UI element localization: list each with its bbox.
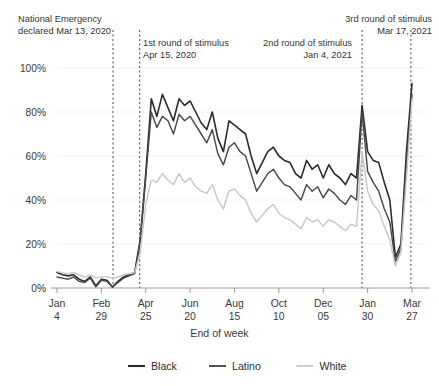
annotation-first-stimulus: 1st round of stimulus bbox=[143, 38, 229, 48]
annotation-first-stimulus: Apr 15, 2020 bbox=[143, 50, 196, 60]
x-axis-month-label: Feb bbox=[92, 298, 110, 309]
axes bbox=[51, 288, 430, 293]
x-axis-day-label: 25 bbox=[140, 311, 152, 322]
legend-label-latino[interactable]: Latino bbox=[232, 360, 261, 372]
legend: BlackLatinoWhite bbox=[128, 360, 347, 372]
x-axis-day-label: 05 bbox=[317, 311, 329, 322]
legend-label-white[interactable]: White bbox=[319, 360, 346, 372]
x-axis-day-label: 27 bbox=[406, 311, 418, 322]
y-axis-tick-label: 80% bbox=[26, 107, 46, 118]
legend-label-black[interactable]: Black bbox=[151, 360, 178, 372]
y-axis-tick-label: 100% bbox=[20, 63, 46, 74]
x-axis-day-label: 15 bbox=[229, 311, 241, 322]
x-axis-day-label: 10 bbox=[273, 311, 285, 322]
y-axis-tick-label: 0% bbox=[31, 283, 46, 294]
x-axis-day-label: 20 bbox=[184, 311, 196, 322]
annotation-second-stimulus: Jan 4, 2021 bbox=[303, 50, 352, 60]
x-axis-day-label: 29 bbox=[96, 311, 108, 322]
x-axis-month-label: Dec bbox=[314, 298, 332, 309]
x-axis-month-label: Oct bbox=[271, 298, 287, 309]
event-annotations: National Emergencydeclared Mar 13, 20201… bbox=[18, 14, 432, 60]
y-axis-tick-labels: 0%20%40%60%80%100% bbox=[20, 63, 46, 294]
x-axis-day-label: 4 bbox=[54, 311, 60, 322]
x-axis-month-label: Jan bbox=[359, 298, 376, 309]
x-axis-day-label: 30 bbox=[362, 311, 374, 322]
x-axis-month-label: Aug bbox=[225, 298, 244, 309]
line-chart: 0%20%40%60%80%100% Jan4Feb29Apr25Jun20Au… bbox=[0, 0, 439, 386]
x-axis-month-label: Jan bbox=[49, 298, 66, 309]
chart-container: 0%20%40%60%80%100% Jan4Feb29Apr25Jun20Au… bbox=[0, 0, 439, 386]
annotation-third-stimulus: 3rd round of stimulus bbox=[345, 14, 432, 24]
y-axis-tick-label: 40% bbox=[26, 195, 46, 206]
x-axis-title: End of week bbox=[190, 327, 249, 339]
x-axis-month-label: Apr bbox=[138, 298, 155, 309]
series-line-black bbox=[57, 83, 412, 287]
x-axis-tick-labels: Jan4Feb29Apr25Jun20Aug15Oct10Dec05Jan30M… bbox=[49, 298, 422, 322]
data-series bbox=[57, 83, 412, 287]
annotation-third-stimulus: Mar 17, 2021 bbox=[377, 26, 432, 36]
x-axis-month-label: Jun bbox=[182, 298, 199, 309]
annotation-national-emergency: National Emergency bbox=[18, 14, 102, 24]
y-axis-tick-label: 60% bbox=[26, 151, 46, 162]
annotation-national-emergency: declared Mar 13, 2020 bbox=[18, 26, 111, 36]
x-axis-month-label: Mar bbox=[403, 298, 421, 309]
annotation-second-stimulus: 2nd round of stimulus bbox=[263, 38, 352, 48]
y-axis-tick-label: 20% bbox=[26, 239, 46, 250]
